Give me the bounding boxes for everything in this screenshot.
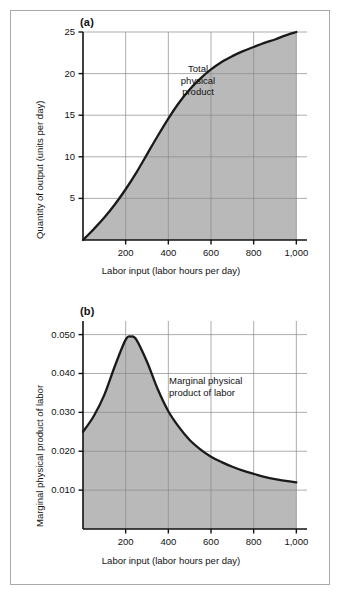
annotation-total-physical-product: Total physical product	[161, 63, 235, 98]
y-tick-label: 20	[11, 68, 75, 79]
x-tick-label: 400	[144, 247, 192, 258]
x-tick-label: 200	[102, 536, 150, 547]
figure-frame: (a) Total physical product Labor input (…	[10, 10, 330, 585]
x-tick-label: 600	[187, 536, 235, 547]
y-tick-label: 15	[11, 109, 75, 120]
y-tick-label: 0.020	[11, 445, 75, 456]
x-tick-label: 600	[187, 247, 235, 258]
y-tick-label: 5	[11, 192, 75, 203]
x-tick-label: 400	[144, 536, 192, 547]
y-tick-label: 0.030	[11, 406, 75, 417]
annotation-marginal-physical-product: Marginal physical product of labor	[169, 375, 289, 398]
x-tick-label: 200	[102, 247, 150, 258]
x-axis-title-b: Labor input (labor hours per day)	[11, 555, 331, 566]
y-tick-label: 0.050	[11, 329, 75, 340]
y-axis-title-a: Quantity of output (units per day)	[34, 101, 45, 239]
x-tick-label: 800	[230, 536, 278, 547]
y-tick-label: 0.010	[11, 484, 75, 495]
x-axis-title-a: Labor input (labor hours per day)	[11, 265, 331, 276]
y-tick-label: 10	[11, 151, 75, 162]
y-tick-label: 25	[11, 26, 75, 37]
x-tick-label: 1,000	[272, 247, 320, 258]
y-tick-label: 0.040	[11, 367, 75, 378]
x-tick-label: 800	[230, 247, 278, 258]
x-tick-label: 1,000	[272, 536, 320, 547]
chart-panel-a: (a) Total physical product Labor input (…	[11, 11, 331, 299]
chart-panel-b: (b) Marginal physical product of labor L…	[11, 299, 331, 586]
